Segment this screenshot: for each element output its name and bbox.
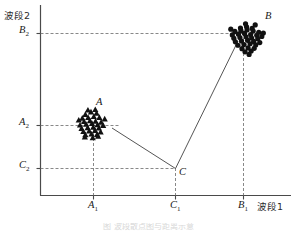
x-tick-label-c1: C1 <box>170 199 181 213</box>
x-tick-label-b1: B1 <box>238 199 248 213</box>
cluster-b-label: B <box>265 10 271 21</box>
x-tick-label-a1: A1 <box>88 199 98 213</box>
data-point <box>235 43 240 48</box>
x-axis-title: 波段1 <box>257 199 283 213</box>
data-point <box>228 27 233 32</box>
y-tick-label-c2: C2 <box>19 159 30 173</box>
y-axis-title: 波段2 <box>4 8 30 22</box>
y-tick-label-b2: B2 <box>19 24 29 38</box>
data-point <box>261 30 266 35</box>
data-point <box>253 22 258 27</box>
band-scatter-plot <box>0 0 297 231</box>
cluster-a-label: A <box>96 96 102 107</box>
y-tick-label-a2: A2 <box>19 116 29 130</box>
point-c-label: C <box>179 166 186 177</box>
figure-caption: 图 波段散点图与距离示意 <box>0 223 297 231</box>
data-point <box>243 21 248 26</box>
data-point <box>247 52 252 57</box>
